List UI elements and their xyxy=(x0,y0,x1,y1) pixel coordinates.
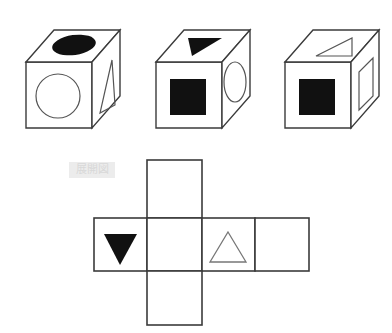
net-cell-bottom xyxy=(147,271,202,325)
net-label: 展開図 xyxy=(69,162,115,178)
net-cell-far-right xyxy=(255,218,309,271)
cube-1 xyxy=(26,30,120,128)
cube-3 xyxy=(285,30,379,128)
figure-root: 展開図 xyxy=(0,0,392,333)
cube-2 xyxy=(156,30,250,128)
cube-net xyxy=(94,160,309,325)
puzzle-figure xyxy=(0,0,392,333)
net-cell-right xyxy=(202,218,255,271)
cube-2-front-square-icon xyxy=(170,79,206,115)
net-cell-center xyxy=(147,218,202,271)
net-cell-top xyxy=(147,160,202,218)
cube-3-front-square-icon xyxy=(299,79,335,115)
